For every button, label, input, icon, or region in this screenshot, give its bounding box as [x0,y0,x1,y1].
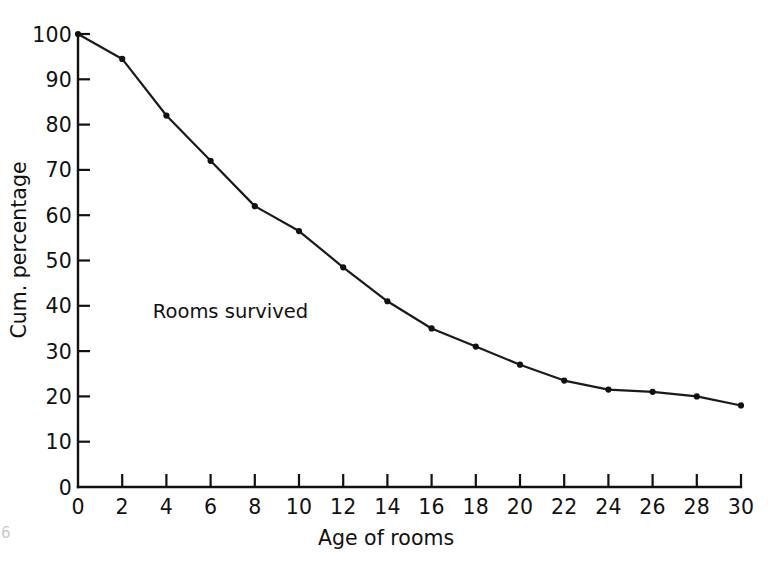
x-tick-label-16: 16 [418,495,445,519]
chart-annotation-rooms-survived: Rooms survived [153,300,308,323]
data-point [384,298,390,304]
y-tick-label-20: 20 [46,385,73,409]
x-tick-label-22: 22 [551,495,578,519]
y-tick-label-40: 40 [46,294,73,318]
y-tick-label-10: 10 [46,430,73,454]
series-markers [75,31,744,409]
data-point [340,264,346,270]
data-series-rooms-survived [75,31,744,409]
data-point [694,393,700,399]
data-point [517,362,523,368]
x-tick-label-24: 24 [595,495,622,519]
x-tick-label-6: 6 [204,495,217,519]
y-tick-label-80: 80 [46,113,73,137]
x-tick-label-26: 26 [639,495,666,519]
x-tick-label-0: 0 [71,495,84,519]
data-point [738,402,744,408]
x-tick-label-4: 4 [160,495,173,519]
y-tick-label-100: 100 [32,23,72,47]
data-point [296,228,302,234]
x-tick-label-18: 18 [463,495,490,519]
data-point [650,389,656,395]
data-point [429,325,435,331]
y-axis-ticks: 0102030405060708090100 [32,23,90,500]
data-point [605,387,611,393]
x-tick-label-2: 2 [116,495,129,519]
page-number-artifact: 6 [1,524,11,542]
x-tick-label-20: 20 [507,495,534,519]
y-tick-label-70: 70 [46,158,73,182]
x-tick-label-14: 14 [374,495,401,519]
data-point [561,377,567,383]
data-point [473,343,479,349]
y-tick-label-90: 90 [46,68,73,92]
data-point [75,31,81,37]
data-point [252,203,258,209]
y-tick-label-60: 60 [46,204,73,228]
x-tick-label-28: 28 [684,495,711,519]
x-tick-label-12: 12 [330,495,357,519]
data-point [208,158,214,164]
x-tick-label-10: 10 [286,495,313,519]
line-chart: 0102030405060708090100 02468101214161820… [0,0,768,564]
axes [78,34,741,487]
chart-figure: 0102030405060708090100 02468101214161820… [0,0,768,564]
y-tick-label-50: 50 [46,249,73,273]
data-point [119,56,125,62]
y-tick-label-0: 0 [59,476,72,500]
x-axis-ticks: 024681012141618202224262830 [71,474,754,519]
y-tick-label-30: 30 [46,340,73,364]
x-tick-label-8: 8 [248,495,261,519]
x-tick-label-30: 30 [728,495,755,519]
data-point [163,112,169,118]
x-axis-title: Age of rooms [318,526,454,550]
y-axis-title: Cum. percentage [7,161,31,338]
series-line-rooms-survived [78,34,741,405]
